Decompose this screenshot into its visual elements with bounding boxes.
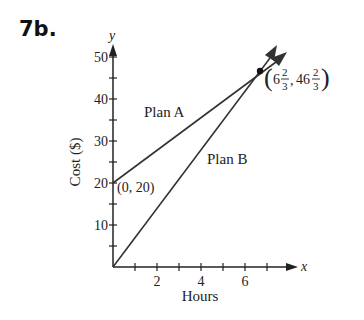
intersection-point <box>257 68 263 74</box>
x-tick-label: 2 <box>154 274 161 289</box>
x-axis-title: Hours <box>182 288 219 304</box>
point-0-20-label: (0, 20) <box>117 180 155 196</box>
intersection-y-den: 3 <box>313 80 319 92</box>
y-tick-label: 20 <box>94 176 108 191</box>
y-tick-label: 10 <box>94 218 108 233</box>
plan-a-line <box>113 62 276 183</box>
svg-text:,: , <box>290 73 294 88</box>
svg-text:): ) <box>321 63 330 92</box>
line-chart: y x 10 20 30 40 50 <box>0 0 364 320</box>
x-tick-label: 6 <box>242 274 249 289</box>
plan-a-label: Plan A <box>144 104 185 120</box>
intersection-y-num: 2 <box>313 66 319 78</box>
y-axis-title: Cost ($) <box>67 138 84 187</box>
intersection-x-whole: 6 <box>273 72 280 87</box>
y-tick-labels: 10 20 30 40 50 <box>94 50 108 233</box>
y-axis-arrow-icon <box>109 44 117 56</box>
y-tick-label: 40 <box>94 92 108 107</box>
x-tick-labels: 2 4 6 <box>154 274 249 289</box>
intersection-y-whole: 46 <box>296 72 310 87</box>
y-tick-label: 50 <box>94 50 108 65</box>
svg-text:(: ( <box>264 63 273 92</box>
chart-figure: 7b. y x 10 20 30 40 <box>0 0 364 320</box>
x-axis-var: x <box>300 259 308 274</box>
x-tick-label: 4 <box>198 274 205 289</box>
intersection-label: ( 6 2 3 , 46 2 3 ) <box>264 63 330 92</box>
intersection-x-num: 2 <box>282 66 288 78</box>
plan-b-label: Plan B <box>207 151 247 167</box>
intersection-x-den: 3 <box>282 80 288 92</box>
y-tick-label: 30 <box>94 134 108 149</box>
problem-label: 7b. <box>19 17 57 41</box>
y-axis-var: y <box>107 28 116 43</box>
x-axis-arrow-icon <box>286 263 298 271</box>
